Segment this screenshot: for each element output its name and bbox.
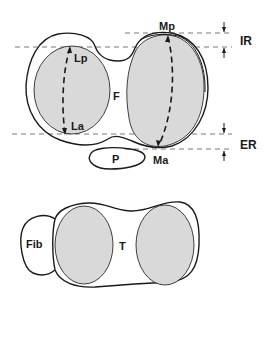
ir-down-arrow-icon xyxy=(222,27,226,32)
mp-label: Mp xyxy=(159,20,175,32)
patella-label: P xyxy=(112,153,119,165)
fibula-label: Fib xyxy=(26,238,43,250)
ir-up-arrow-icon xyxy=(222,48,226,53)
internal-rotation-indicator: IR xyxy=(222,22,252,58)
er-down-arrow-icon xyxy=(222,128,226,133)
er-label: ER xyxy=(240,138,257,152)
external-rotation-indicator: ER xyxy=(222,123,257,161)
lateral-tibial-facet xyxy=(55,206,113,284)
ir-label: IR xyxy=(240,34,252,48)
tibia-label: T xyxy=(119,240,126,252)
medial-tibial-facet xyxy=(136,205,194,285)
knee-diagram: Lp La Mp Ma F P IR ER Fib xyxy=(0,0,270,344)
femur-label: F xyxy=(113,90,120,102)
femur-view: Lp La Mp Ma F P IR ER xyxy=(12,20,257,169)
ma-label: Ma xyxy=(153,154,169,166)
lp-label: Lp xyxy=(74,52,88,64)
tibia-view: Fib T xyxy=(21,202,199,287)
er-up-arrow-icon xyxy=(222,151,226,156)
la-label: La xyxy=(71,120,85,132)
